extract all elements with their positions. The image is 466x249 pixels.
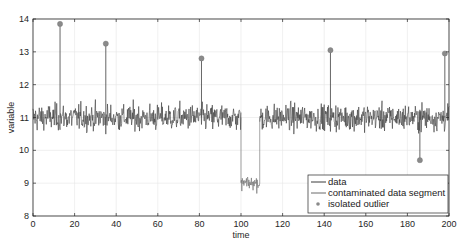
- legend-label-data: data: [328, 176, 347, 187]
- outlier-point: [417, 158, 422, 163]
- chart: 020406080100120140160180200 891011121314…: [0, 0, 466, 249]
- legend: data contaminated data segment isolated …: [308, 175, 448, 213]
- y-tick-label: 14: [19, 14, 29, 24]
- legend-label-contaminated: contaminated data segment: [328, 187, 446, 198]
- x-tick-label: 40: [111, 219, 121, 229]
- y-tick-label: 11: [20, 113, 29, 123]
- x-tick-label: 20: [70, 219, 80, 229]
- y-tick-label: 8: [24, 211, 29, 221]
- outlier-point: [328, 48, 333, 53]
- outlier-point: [103, 41, 108, 46]
- x-tick-label: 60: [153, 219, 163, 229]
- y-tick-label: 9: [24, 178, 29, 188]
- legend-outlier-marker-icon: [316, 202, 320, 206]
- y-axis-label: variable: [6, 102, 16, 134]
- x-tick-label: 100: [233, 219, 248, 229]
- x-tick-label: 200: [441, 219, 456, 229]
- x-axis-label: time: [232, 230, 249, 240]
- legend-label-outlier: isolated outlier: [328, 198, 389, 209]
- x-tick-label: 120: [275, 219, 290, 229]
- y-tick-label: 13: [19, 47, 29, 57]
- contaminated-segment-line: [241, 118, 260, 194]
- x-tick-label: 140: [317, 219, 332, 229]
- outlier-point: [57, 21, 62, 26]
- outlier-point: [199, 56, 204, 61]
- y-tick-label: 10: [19, 145, 29, 155]
- x-tick-label: 160: [358, 219, 373, 229]
- y-tick-label: 12: [19, 80, 29, 90]
- x-tick-label: 80: [194, 219, 204, 229]
- x-tick-label: 0: [30, 219, 35, 229]
- x-tick-label: 180: [400, 219, 415, 229]
